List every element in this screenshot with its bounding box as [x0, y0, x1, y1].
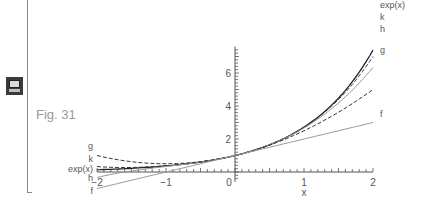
x-axis-label: x — [302, 187, 307, 198]
curve-label-right: g — [380, 45, 385, 55]
x-tick-label: −1 — [160, 177, 172, 188]
x-tick-label: 0 — [226, 177, 232, 188]
curve-label-right: k — [380, 12, 385, 22]
y-tick-label: 4 — [225, 101, 231, 112]
y-tick-label: 6 — [225, 68, 231, 79]
x-tick-label: 2 — [370, 177, 376, 188]
curve-label-left: g — [88, 141, 93, 151]
curve-label-left: k — [89, 154, 94, 164]
curve-label-right: h — [380, 24, 385, 34]
curve-label-right: exp(x) — [380, 0, 405, 10]
curve-label-right: f — [380, 109, 383, 119]
chart: −2−1012246xexp(x)exp(x)kkhhggff — [0, 0, 425, 209]
curve-label-left: h — [88, 173, 93, 183]
y-tick-label: 2 — [225, 134, 231, 145]
x-tick-label: −2 — [91, 177, 103, 188]
